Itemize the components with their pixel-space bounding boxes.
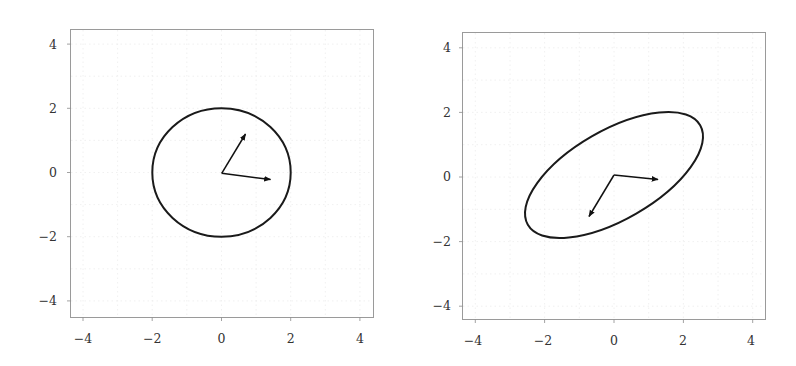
right-x-tick-labels: −4 −2 0 2 4 [464, 333, 755, 348]
y-tick-label: 0 [443, 169, 451, 184]
right-plot: −4 −2 0 2 4 4 2 0 −2 −4 [433, 33, 766, 349]
y-tick-label: −4 [433, 298, 451, 313]
x-tick-label: 0 [218, 331, 226, 346]
x-tick-label: 0 [610, 333, 618, 348]
right-y-tick-labels: 4 2 0 −2 −4 [433, 40, 451, 313]
x-tick-label: −4 [464, 333, 482, 348]
vector-arrow [222, 134, 246, 173]
left-x-tick-labels: −4 −2 0 2 4 [74, 331, 364, 346]
x-tick-label: 2 [679, 333, 687, 348]
y-tick-label: 2 [49, 101, 57, 116]
x-tick-label: 4 [356, 331, 364, 346]
x-tick-label: 2 [287, 331, 295, 346]
x-tick-label: −4 [74, 331, 92, 346]
y-tick-label: 0 [49, 165, 57, 180]
left-ticks [67, 44, 360, 321]
right-ticks [459, 48, 753, 323]
vector-arrow [589, 175, 614, 217]
left-plot: −4 −2 0 2 4 4 2 0 −2 −4 [39, 30, 374, 347]
y-tick-label: −2 [39, 229, 57, 244]
y-tick-label: 4 [49, 37, 57, 52]
y-tick-label: −2 [433, 234, 451, 249]
x-tick-label: −2 [143, 331, 161, 346]
left-y-tick-labels: 4 2 0 −2 −4 [39, 37, 57, 309]
figure: −4 −2 0 2 4 4 2 0 −2 −4 [0, 0, 796, 366]
left-grid [71, 30, 372, 317]
y-tick-label: −4 [39, 293, 57, 308]
vector-arrow [222, 173, 271, 179]
y-tick-label: 2 [443, 105, 451, 120]
x-tick-label: 4 [747, 333, 755, 348]
x-tick-label: −2 [534, 333, 552, 348]
y-tick-label: 4 [443, 40, 451, 55]
